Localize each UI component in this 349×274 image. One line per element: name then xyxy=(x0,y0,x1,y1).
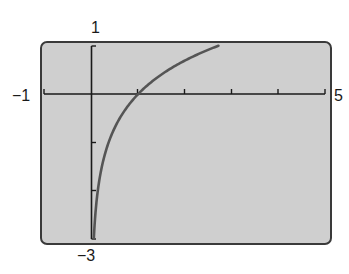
ymin-label: −3 xyxy=(77,248,95,264)
xmin-label: −1 xyxy=(12,88,30,104)
plot-area xyxy=(0,0,349,274)
ymax-label: 1 xyxy=(91,20,100,36)
ln-curve xyxy=(94,46,219,239)
xmax-label: 5 xyxy=(334,88,343,104)
